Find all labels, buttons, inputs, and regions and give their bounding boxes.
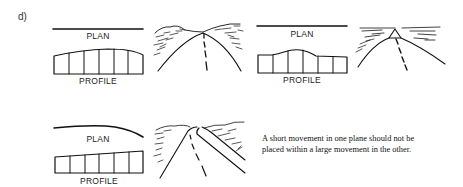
plan-label: PLAN xyxy=(86,31,109,41)
caption: A short movement in one plane should not… xyxy=(262,134,462,155)
example-3-profile: PROFILE xyxy=(55,151,143,186)
plan-label: PLAN xyxy=(290,29,313,39)
road-alignment-figure: d) PLAN PROFILE PLAN PROFILE xyxy=(0,0,463,187)
example-1-perspective-sketch xyxy=(154,24,243,71)
profile-label: PROFILE xyxy=(79,76,117,86)
example-2-perspective-sketch xyxy=(356,27,445,70)
panel-label: d) xyxy=(18,11,27,22)
example-2-profile: PROFILE xyxy=(258,50,347,85)
example-3-plan: PLAN xyxy=(54,126,143,144)
example-3-perspective-sketch xyxy=(154,122,245,178)
caption-line-1: A short movement in one plane should not… xyxy=(262,134,462,145)
profile-label: PROFILE xyxy=(80,176,118,186)
example-1-plan: PLAN xyxy=(53,29,143,41)
example-1-profile: PROFILE xyxy=(54,49,143,86)
plan-label: PLAN xyxy=(86,134,109,144)
caption-line-2: placed within a large movement in the ot… xyxy=(262,145,462,156)
example-2-plan: PLAN xyxy=(257,26,347,39)
profile-label: PROFILE xyxy=(283,75,321,85)
